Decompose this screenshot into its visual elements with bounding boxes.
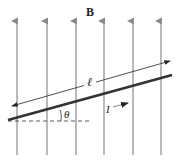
- angle-arc: [60, 110, 61, 121]
- angle-label: θ: [64, 108, 70, 120]
- current-arrow-icon: [113, 103, 128, 107]
- current-label: I: [105, 103, 111, 115]
- length-label: ℓ: [87, 75, 92, 89]
- field-label: B: [86, 5, 94, 19]
- diagram-svg: B ℓ θ I: [0, 0, 180, 162]
- diagram: B ℓ θ I: [0, 0, 180, 162]
